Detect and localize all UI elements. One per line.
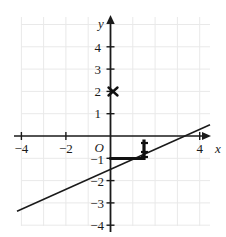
- y-axis: [106, 15, 114, 232]
- y-tick-label-1: 1: [95, 106, 102, 121]
- y-tick-label-4: 4: [95, 40, 102, 55]
- y-tick-label-2: 2: [95, 84, 102, 99]
- y-tick-label-neg3: −3: [90, 196, 104, 211]
- y-tick-label-neg2: −2: [90, 174, 104, 189]
- x-axis-label: x: [214, 141, 221, 156]
- y-tick-label-neg4: −4: [90, 218, 104, 233]
- coordinate-plane-figure: 4 3 2 1 −1 −2 −3 −4 −4 −2 4 O y x: [0, 0, 226, 237]
- origin-label: O: [95, 140, 105, 155]
- x-tick-label-neg2: −2: [59, 141, 73, 156]
- x-tick-label-4: 4: [196, 141, 203, 156]
- linear-function-line: [17, 125, 210, 212]
- x-tick-label-neg4: −4: [14, 141, 28, 156]
- y-axis-label: y: [96, 16, 104, 31]
- graph-canvas: 4 3 2 1 −1 −2 −3 −4 −4 −2 4 O y x: [0, 0, 226, 237]
- y-tick-label-3: 3: [95, 62, 102, 77]
- grid-lines: [21, 17, 210, 226]
